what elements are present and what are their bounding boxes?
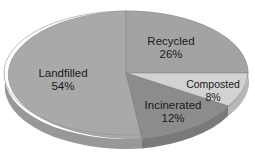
label-recycled: Recycled 26% [147,35,194,61]
label-landfilled-value: 54% [38,80,87,93]
label-recycled-value: 26% [147,48,194,61]
label-landfilled-name: Landfilled [38,67,87,80]
label-composted-name: Composted [186,78,240,91]
label-incinerated-value: 12% [145,112,202,125]
label-incinerated-name: Incinerated [145,99,202,112]
label-landfilled: Landfilled 54% [38,67,87,93]
label-incinerated: Incinerated 12% [145,99,202,125]
label-recycled-name: Recycled [147,35,194,48]
